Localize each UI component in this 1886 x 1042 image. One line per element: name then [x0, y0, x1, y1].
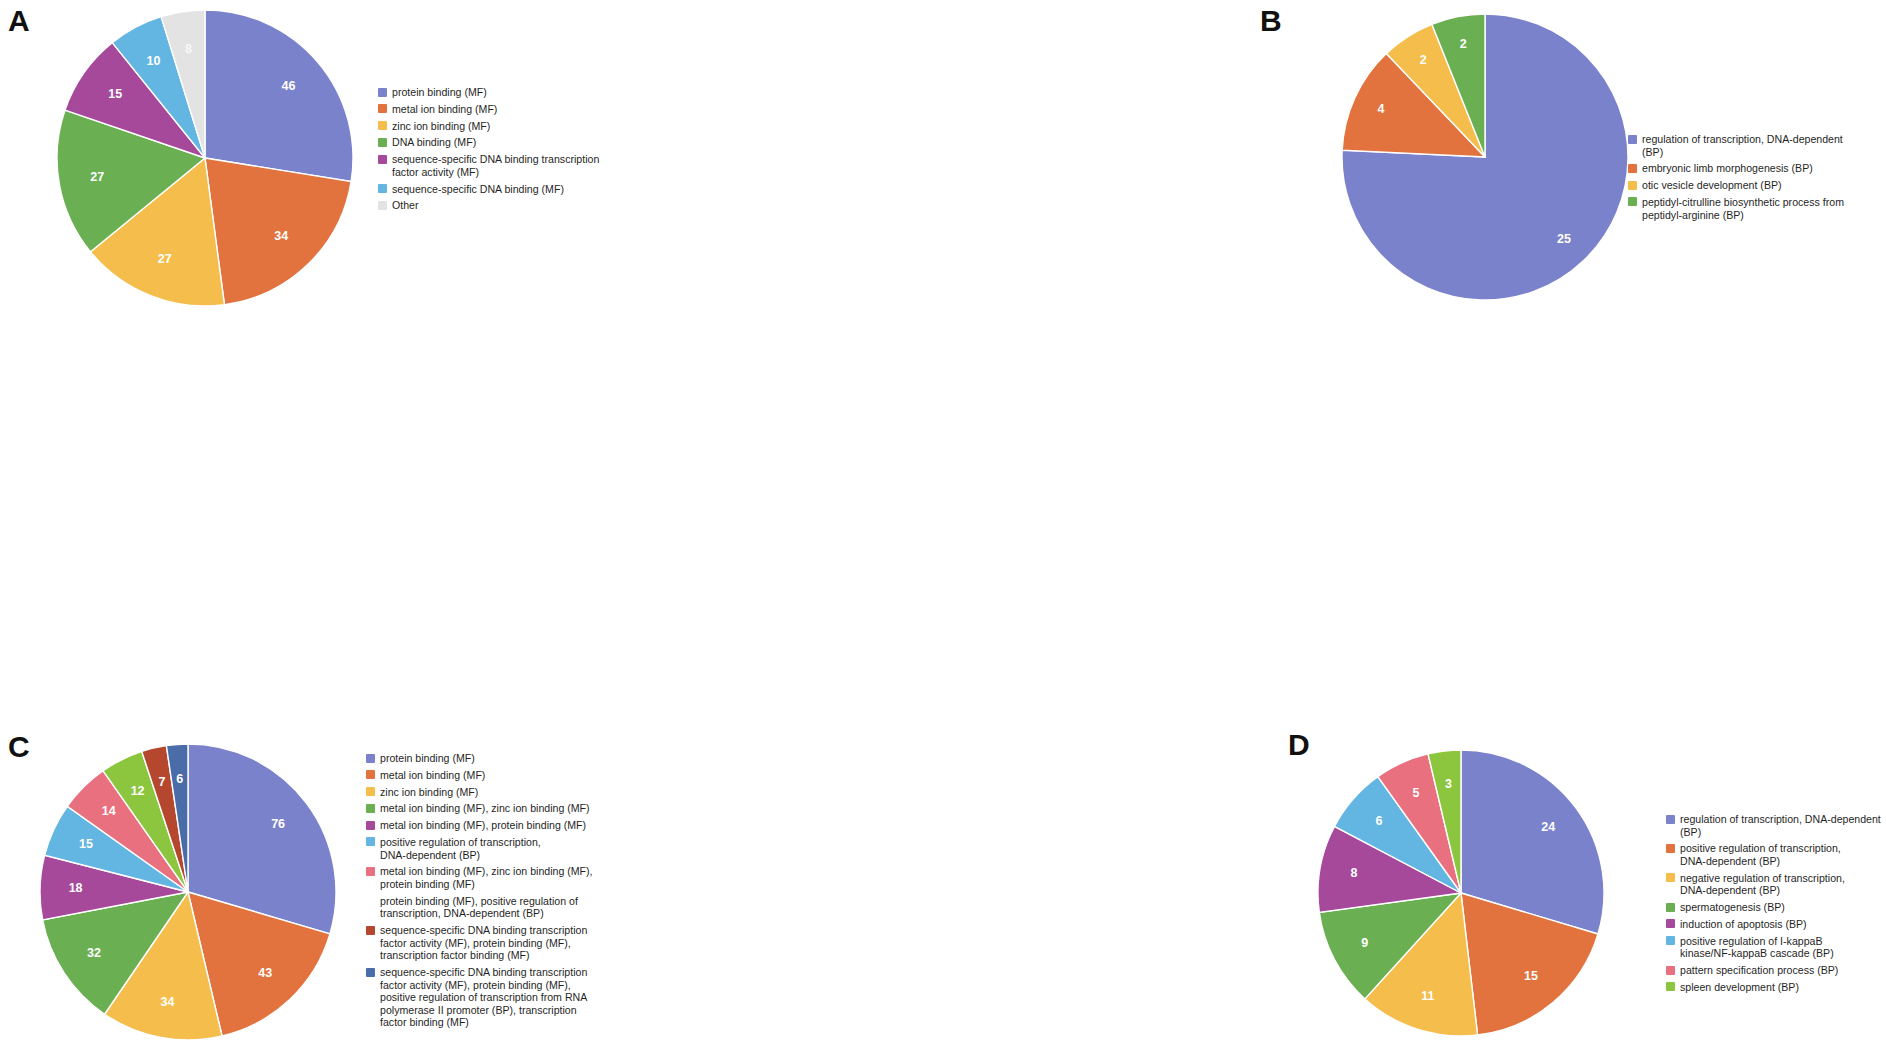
- legend-item: otic vesicle development (BP): [1628, 179, 1886, 192]
- legend-color-swatch: [366, 837, 375, 846]
- pie-slice-label: 25: [1557, 232, 1571, 246]
- legend-item: positive regulation of I-kappaB kinase/N…: [1666, 935, 1886, 960]
- legend-label: metal ion binding (MF), zinc ion binding…: [380, 865, 593, 890]
- pie-slice-label: 4: [1377, 102, 1384, 116]
- legend-item: metal ion binding (MF): [366, 769, 636, 782]
- legend-item: metal ion binding (MF), protein binding …: [366, 819, 636, 832]
- legend-color-swatch: [1666, 936, 1675, 945]
- legend-color-swatch: [1666, 815, 1675, 824]
- panel-a: A 4634272715108 protein binding (MF)meta…: [0, 0, 640, 360]
- legend-label: metal ion binding (MF), zinc ion binding…: [380, 802, 590, 815]
- pie-slice-label: 7: [159, 775, 166, 789]
- legend-color-swatch: [366, 804, 375, 813]
- pie-slice-label: 43: [258, 966, 272, 980]
- legend-label: regulation of transcription, DNA-depende…: [1642, 133, 1843, 158]
- legend-color-swatch: [378, 155, 387, 164]
- legend-item: induction of apoptosis (BP): [1666, 918, 1886, 931]
- pie-slice-label: 14: [102, 804, 116, 818]
- legend-label: metal ion binding (MF), protein binding …: [380, 819, 586, 832]
- pie-slice-label: 10: [147, 54, 161, 68]
- panel-c-pie-svg: 764334321815141276: [38, 742, 338, 1042]
- legend-label: protein binding (MF): [380, 752, 475, 765]
- legend-color-swatch: [378, 201, 387, 210]
- pie-slice-label: 34: [161, 995, 175, 1009]
- legend-item: regulation of transcription, DNA-depende…: [1666, 813, 1886, 838]
- panel-d-letter: D: [1288, 730, 1310, 760]
- pie-slice-label: 18: [69, 881, 83, 895]
- legend-color-swatch: [1666, 982, 1675, 991]
- pie-slice-label: 27: [90, 170, 104, 184]
- legend-color-swatch: [366, 754, 375, 763]
- pie-slice-label: 2: [1420, 53, 1427, 67]
- legend-item: metal ion binding (MF), zinc ion binding…: [366, 802, 636, 815]
- pie-slice-label: 24: [1541, 820, 1555, 834]
- legend-item: sequence-specific DNA binding (MF): [378, 183, 628, 196]
- legend-color-swatch: [378, 104, 387, 113]
- panel-c: C 764334321815141276 protein binding (MF…: [0, 360, 640, 724]
- legend-color-swatch: [1666, 844, 1675, 853]
- pie-slice-label: 15: [108, 87, 122, 101]
- legend-label: spermatogenesis (BP): [1680, 901, 1785, 914]
- legend-color-swatch: [366, 770, 375, 779]
- panel-b-legend: regulation of transcription, DNA-depende…: [1628, 133, 1886, 225]
- legend-item: embryonic limb morphogenesis (BP): [1628, 162, 1886, 175]
- legend-color-swatch: [1666, 966, 1675, 975]
- pie-slice-label: 6: [176, 772, 183, 786]
- pie-slice-label: 6: [1376, 814, 1383, 828]
- legend-item: positive regulation of transcription, DN…: [1666, 842, 1886, 867]
- legend-item: pattern specification process (BP): [1666, 964, 1886, 977]
- panel-c-pie-chart: 764334321815141276: [38, 742, 338, 1042]
- legend-item: negative regulation of transcription, DN…: [1666, 872, 1886, 897]
- legend-label: metal ion binding (MF): [392, 103, 497, 116]
- legend-label: zinc ion binding (MF): [392, 120, 490, 133]
- legend-label: positive regulation of I-kappaB kinase/N…: [1680, 935, 1834, 960]
- panel-b-letter: B: [1260, 6, 1282, 36]
- legend-label: embryonic limb morphogenesis (BP): [1642, 162, 1813, 175]
- legend-item: zinc ion binding (MF): [378, 120, 628, 133]
- legend-color-swatch: [366, 896, 375, 905]
- legend-label: zinc ion binding (MF): [380, 786, 478, 799]
- pie-slice-label: 27: [158, 252, 172, 266]
- legend-color-swatch: [366, 787, 375, 796]
- legend-label: Other: [392, 199, 419, 212]
- legend-color-swatch: [366, 926, 375, 935]
- legend-label: peptidyl-citrulline biosynthetic process…: [1642, 196, 1844, 221]
- legend-color-swatch: [378, 138, 387, 147]
- pie-slice-label: 76: [271, 817, 285, 831]
- legend-label: DNA binding (MF): [392, 136, 476, 149]
- legend-label: otic vesicle development (BP): [1642, 179, 1782, 192]
- legend-color-swatch: [1628, 135, 1637, 144]
- legend-item: protein binding (MF): [378, 86, 628, 99]
- pie-slice-label: 9: [1361, 936, 1368, 950]
- pie-slice-label: 8: [1351, 866, 1358, 880]
- legend-label: positive regulation of transcription, DN…: [1680, 842, 1841, 867]
- legend-item: regulation of transcription, DNA-depende…: [1628, 133, 1886, 158]
- panel-d: D 24151198653 regulation of transcriptio…: [640, 360, 1279, 724]
- legend-item: sequence-specific DNA binding transcript…: [378, 153, 628, 178]
- legend-label: pattern specification process (BP): [1680, 964, 1838, 977]
- panel-c-legend: protein binding (MF)metal ion binding (M…: [366, 752, 636, 1033]
- pie-slice-label: 3: [1445, 777, 1452, 791]
- panel-b: B 25422 regulation of transcription, DNA…: [620, 0, 1279, 360]
- legend-item: sequence-specific DNA binding transcript…: [366, 966, 636, 1029]
- panel-d-pie-chart: 24151198653: [1316, 748, 1606, 1038]
- pie-slice-label: 2: [1460, 37, 1467, 51]
- legend-color-swatch: [1666, 919, 1675, 928]
- legend-color-swatch: [1628, 164, 1637, 173]
- legend-label: regulation of transcription, DNA-depende…: [1680, 813, 1881, 838]
- pie-slice-label: 46: [281, 79, 295, 93]
- legend-label: negative regulation of transcription, DN…: [1680, 872, 1845, 897]
- legend-label: sequence-specific DNA binding (MF): [392, 183, 564, 196]
- legend-color-swatch: [378, 184, 387, 193]
- legend-item: metal ion binding (MF), zinc ion binding…: [366, 865, 636, 890]
- panel-d-legend: regulation of transcription, DNA-depende…: [1666, 813, 1886, 998]
- panel-a-legend: protein binding (MF)metal ion binding (M…: [378, 86, 628, 216]
- legend-item: metal ion binding (MF): [378, 103, 628, 116]
- legend-color-swatch: [378, 88, 387, 97]
- panel-a-pie-chart: 4634272715108: [55, 8, 355, 308]
- legend-color-swatch: [366, 968, 375, 977]
- pie-slice: [205, 10, 353, 182]
- panel-c-letter: C: [8, 732, 30, 762]
- legend-label: metal ion binding (MF): [380, 769, 485, 782]
- legend-label: protein binding (MF), positive regulatio…: [380, 895, 578, 920]
